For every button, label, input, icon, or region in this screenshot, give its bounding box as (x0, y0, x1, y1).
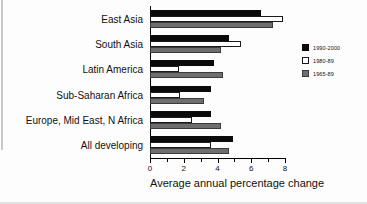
value-axis-tick (218, 159, 219, 163)
bar (150, 98, 204, 104)
value-axis-tick-label: 2 (182, 164, 186, 173)
category-label: Europe, Mid East, N Africa (26, 115, 143, 126)
value-axis-minor-tick (167, 159, 168, 162)
value-axis-tick-label: 0 (148, 164, 152, 173)
value-axis-tick (150, 159, 151, 163)
legend-swatch-icon (302, 57, 309, 64)
chart-legend: 1990-20001980-891965-89 (302, 43, 364, 82)
category-label: Sub-Saharan Africa (56, 89, 143, 100)
value-axis-tick-label: 6 (249, 164, 253, 173)
value-axis-minor-tick (268, 159, 269, 162)
bar-group (150, 60, 285, 78)
value-axis-tick (285, 159, 286, 163)
value-axis-tick (184, 159, 185, 163)
legend-item[interactable]: 1965-89 (302, 69, 364, 78)
legend-label: 1965-89 (313, 71, 334, 77)
value-axis-tick-label: 4 (215, 164, 219, 173)
bar-group (150, 111, 285, 129)
horizontal-grouped-bar-chart: East AsiaSouth AsiaLatin AmericaSub-Saha… (0, 0, 367, 204)
legend-swatch-icon (302, 70, 309, 77)
bar (150, 148, 229, 154)
bar-group (150, 10, 285, 28)
bar-group (150, 86, 285, 104)
category-label: Latin America (82, 64, 143, 75)
bar-group (150, 136, 285, 154)
legend-item[interactable]: 1990-2000 (302, 43, 364, 52)
legend-label: 1980-89 (313, 58, 334, 64)
bar (150, 47, 221, 53)
legend-swatch-icon (302, 44, 309, 51)
value-axis-tick-label: 8 (283, 164, 287, 173)
legend-item[interactable]: 1980-89 (302, 56, 364, 65)
category-label: South Asia (95, 39, 143, 50)
value-axis-minor-tick (201, 159, 202, 162)
category-label: All developing (81, 140, 143, 151)
value-axis-tick (251, 159, 252, 163)
figure-page: East AsiaSouth AsiaLatin AmericaSub-Saha… (0, 0, 367, 204)
bar (150, 22, 273, 28)
category-axis-labels: East AsiaSouth AsiaLatin AmericaSub-Saha… (0, 0, 147, 204)
value-axis-title: Average annual percentage change (150, 177, 286, 189)
legend-label: 1990-2000 (313, 45, 340, 51)
value-axis-minor-tick (234, 159, 235, 162)
category-label: East Asia (101, 13, 143, 24)
plot-area (150, 6, 285, 158)
bar (150, 72, 223, 78)
bar (150, 123, 221, 129)
bar-group (150, 35, 285, 53)
